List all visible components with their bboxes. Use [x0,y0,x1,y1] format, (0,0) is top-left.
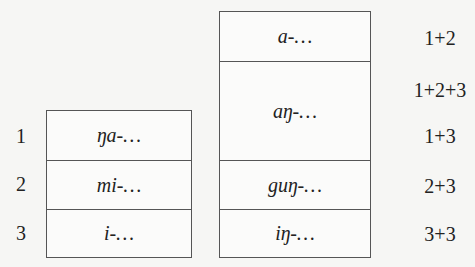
person-number-1: 1 [12,126,30,146]
form-text: ŋa-… [97,124,141,147]
form-cell-ing: iŋ-… [220,209,370,257]
form-text: mi-… [97,174,141,197]
form-cell-ang: aŋ-… [220,61,370,160]
form-text: a-… [278,25,312,48]
combo-label-1-2: 1+2 [405,28,475,48]
form-cell-3: i-… [47,209,191,257]
combo-label-3-3: 3+3 [405,224,475,244]
form-text: iŋ-… [275,222,315,245]
form-text: i-… [104,222,134,245]
form-text: aŋ-… [273,100,317,123]
person-number-3: 3 [12,223,30,243]
combo-label-1-3: 1+3 [405,126,475,146]
singular-pronoun-table: ŋa-… mi-… i-… [46,110,192,258]
form-text: guŋ-… [268,174,322,197]
form-cell-a: a-… [220,12,370,61]
combined-pronoun-table: a-… aŋ-… guŋ-… iŋ-… [219,11,371,258]
form-cell-1: ŋa-… [47,111,191,160]
form-cell-gung: guŋ-… [220,160,370,209]
combo-label-1-2-3: 1+2+3 [405,80,475,100]
person-number-2: 2 [12,174,30,194]
form-cell-2: mi-… [47,160,191,209]
combo-label-2-3: 2+3 [405,176,475,196]
